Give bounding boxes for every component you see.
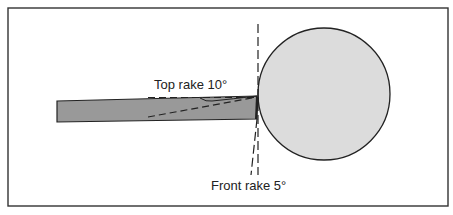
- rake-angle-diagram: Top rake 10° Front rake 5°: [0, 0, 453, 215]
- top-rake-label: Top rake 10°: [154, 77, 227, 92]
- workpiece-circle: [258, 28, 390, 160]
- front-rake-label: Front rake 5°: [211, 178, 286, 193]
